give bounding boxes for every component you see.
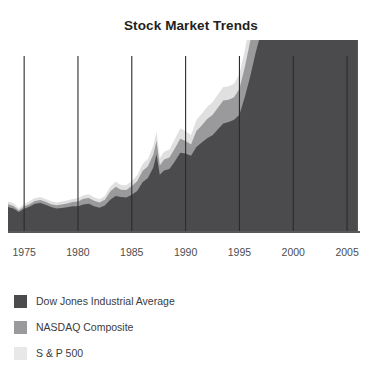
legend-swatch-s-and-p-500 [14,347,27,360]
stacked-area-plot [0,40,382,240]
x-tick-label-1980: 1980 [58,246,98,258]
legend-item: Dow Jones Industrial Average [14,288,314,314]
x-tick-label-2000: 2000 [273,246,313,258]
x-tick-label-1995: 1995 [219,246,259,258]
area-series-group [8,40,358,232]
legend-label-dow-jones-industrial-average: Dow Jones Industrial Average [36,295,175,307]
legend-label-s-and-p-500: S & P 500 [36,347,83,359]
legend-swatch-dow-jones-industrial-average [14,295,27,308]
stock-market-trends-chart: Stock Market Trends 19751980198519901995… [0,0,382,378]
x-axis-tick-labels: 1975198019851990199520002005 [0,246,382,264]
legend-item: S & P 500 [14,340,314,366]
x-tick-label-1985: 1985 [112,246,152,258]
chart-legend: Dow Jones Industrial Average NASDAQ Comp… [14,288,314,366]
plot-area [0,40,382,240]
legend-label-nasdaq-composite: NASDAQ Composite [36,321,133,333]
legend-swatch-nasdaq-composite [14,321,27,334]
x-tick-label-1975: 1975 [4,246,44,258]
chart-title: Stock Market Trends [0,18,382,33]
legend-item: NASDAQ Composite [14,314,314,340]
x-tick-label-1990: 1990 [166,246,206,258]
x-tick-label-2005: 2005 [327,246,367,258]
